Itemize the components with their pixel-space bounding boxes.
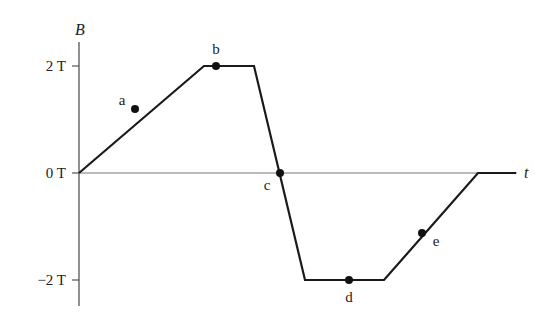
- point-label-b: b: [212, 41, 220, 57]
- y-tick-label-2: 2 T: [46, 58, 66, 74]
- y-tick-label-m2: −2 T: [37, 272, 66, 288]
- point-label-a: a: [119, 92, 126, 108]
- point-b: [212, 62, 220, 70]
- point-label-e: e: [433, 233, 440, 249]
- point-c: [276, 169, 284, 177]
- y-tick-label-0: 0 T: [46, 165, 66, 181]
- magnetic-field-graph: 2 T 0 T −2 T B t a b c d e: [0, 0, 537, 316]
- point-label-d: d: [345, 289, 353, 305]
- point-d: [345, 276, 353, 284]
- point-a: [131, 105, 139, 113]
- point-e: [418, 229, 426, 237]
- y-axis-title: B: [75, 21, 85, 38]
- x-axis-title: t: [524, 164, 529, 181]
- point-label-c: c: [264, 177, 271, 193]
